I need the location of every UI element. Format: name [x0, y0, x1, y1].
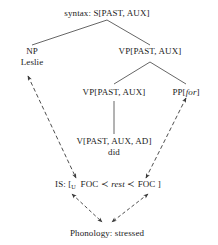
syntax-is-phonology-diagram: syntax: S[PAST, AUX] NP Leslie VP[PAST, … — [0, 0, 218, 245]
is-precedence-2: ≺ — [127, 179, 135, 189]
link-foc1-phonology — [72, 194, 102, 222]
node-pp-prefix: PP[ — [172, 87, 185, 97]
is-precedence-1: ≺ — [101, 179, 109, 189]
is-suffix: ] — [158, 179, 161, 189]
node-root-syntax: syntax: S[PAST, AUX] — [64, 8, 149, 19]
node-vp-mid: VP[PAST, AUX] — [83, 87, 146, 98]
is-prefix: IS: [ — [55, 179, 71, 189]
is-foc1: FOC — [81, 179, 99, 189]
node-np-word: Leslie — [21, 57, 44, 68]
node-v-word: did — [76, 147, 151, 158]
node-pp-italic: for — [186, 87, 197, 97]
node-np-label: NP — [21, 46, 44, 57]
node-is-line: IS: [U FOC ≺ rest ≺ FOC ] — [55, 179, 161, 193]
tree-branch-s-vp — [107, 20, 150, 45]
node-v: V[PAST, AUX, AD] did — [76, 136, 151, 157]
link-foc2-phonology — [112, 194, 148, 222]
node-v-label: V[PAST, AUX, AD] — [76, 136, 151, 147]
tree-branch-vp-vp — [114, 62, 150, 84]
node-phonology: Phonology: stressed — [70, 228, 144, 239]
node-np: NP Leslie — [21, 46, 44, 67]
tree-branch-vp-pp — [150, 62, 186, 84]
node-pp-for: PP[for] — [172, 87, 199, 98]
node-pp-suffix: ] — [197, 87, 200, 97]
link-pp-foc2 — [146, 98, 186, 178]
is-subscript: U — [71, 183, 76, 190]
diagram-lines-layer — [0, 0, 218, 245]
tree-branch-s-np — [32, 20, 107, 45]
is-rest: rest — [111, 179, 125, 189]
is-foc2: FOC — [138, 179, 156, 189]
node-vp-top: VP[PAST, AUX] — [119, 46, 182, 57]
link-leslie-foc1 — [28, 76, 76, 178]
